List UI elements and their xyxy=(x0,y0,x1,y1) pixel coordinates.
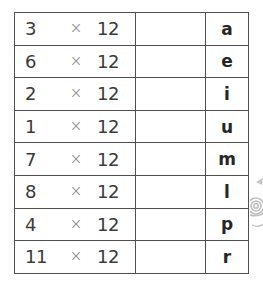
multiplication-sign-icon: × xyxy=(59,119,93,134)
problem-expression: 4×12 xyxy=(15,209,135,241)
answer-cell[interactable] xyxy=(136,143,206,176)
answer-cell[interactable] xyxy=(136,13,206,46)
table-row: 4×12p xyxy=(15,208,249,241)
table-body: 3×12a6×12e2×12i1×12u7×12m8×12l4×12p11×12… xyxy=(15,13,249,274)
problem-expression: 3×12 xyxy=(15,13,135,45)
answer-cell[interactable] xyxy=(136,78,206,111)
factor-a: 6 xyxy=(25,51,59,72)
problem-expression: 2×12 xyxy=(15,78,135,110)
letter-key-cell: e xyxy=(206,45,249,78)
letter-key: p xyxy=(206,209,248,241)
answer-input-area[interactable] xyxy=(136,241,205,273)
letter-key: l xyxy=(206,176,248,208)
letter-key-cell: a xyxy=(206,13,249,46)
letter-key: i xyxy=(206,78,248,110)
letter-key: e xyxy=(206,46,248,78)
factor-a: 11 xyxy=(25,246,59,267)
letter-key-cell: i xyxy=(206,78,249,111)
problem-cell: 7×12 xyxy=(15,143,136,176)
multiplication-sign-icon: × xyxy=(59,217,93,232)
factor-b: 12 xyxy=(93,83,129,104)
problem-cell: 3×12 xyxy=(15,13,136,46)
table-row: 7×12m xyxy=(15,143,249,176)
table-row: 1×12u xyxy=(15,110,249,143)
letter-key: r xyxy=(206,241,248,273)
answer-input-area[interactable] xyxy=(136,13,205,45)
answer-cell[interactable] xyxy=(136,110,206,143)
problem-cell: 2×12 xyxy=(15,78,136,111)
multiplication-table: 3×12a6×12e2×12i1×12u7×12m8×12l4×12p11×12… xyxy=(14,12,249,274)
letter-key: a xyxy=(206,13,248,45)
problem-cell: 1×12 xyxy=(15,110,136,143)
factor-b: 12 xyxy=(93,181,129,202)
table-row: 3×12a xyxy=(15,13,249,46)
letter-key: u xyxy=(206,111,248,143)
problem-cell: 4×12 xyxy=(15,208,136,241)
factor-b: 12 xyxy=(93,51,129,72)
answer-cell[interactable] xyxy=(136,175,206,208)
problem-expression: 1×12 xyxy=(15,111,135,143)
problem-expression: 7×12 xyxy=(15,143,135,175)
multiplication-sign-icon: × xyxy=(59,152,93,167)
factor-a: 2 xyxy=(25,83,59,104)
problem-cell: 6×12 xyxy=(15,45,136,78)
factor-a: 4 xyxy=(25,214,59,235)
letter-key-cell: p xyxy=(206,208,249,241)
factor-a: 8 xyxy=(25,181,59,202)
factor-b: 12 xyxy=(93,214,129,235)
problem-expression: 6×12 xyxy=(15,46,135,78)
multiplication-sign-icon: × xyxy=(59,249,93,264)
letter-key-cell: r xyxy=(206,241,249,274)
factor-a: 3 xyxy=(25,18,59,39)
problem-expression: 11×12 xyxy=(15,241,135,273)
answer-input-area[interactable] xyxy=(136,78,205,110)
table-row: 6×12e xyxy=(15,45,249,78)
multiplication-sign-icon: × xyxy=(59,54,93,69)
answer-input-area[interactable] xyxy=(136,46,205,78)
table-row: 8×12l xyxy=(15,175,249,208)
problem-cell: 8×12 xyxy=(15,175,136,208)
letter-key: m xyxy=(206,143,248,175)
factor-b: 12 xyxy=(93,246,129,267)
factor-a: 1 xyxy=(25,116,59,137)
multiplication-sign-icon: × xyxy=(59,21,93,36)
answer-input-area[interactable] xyxy=(136,143,205,175)
letter-key-cell: m xyxy=(206,143,249,176)
answer-cell[interactable] xyxy=(136,208,206,241)
snail-clipart-icon xyxy=(250,176,263,234)
answer-input-area[interactable] xyxy=(136,176,205,208)
table-row: 2×12i xyxy=(15,78,249,111)
letter-key-cell: l xyxy=(206,175,249,208)
factor-a: 7 xyxy=(25,149,59,170)
problem-cell: 11×12 xyxy=(15,241,136,274)
multiplication-sign-icon: × xyxy=(59,184,93,199)
factor-b: 12 xyxy=(93,18,129,39)
answer-input-area[interactable] xyxy=(136,209,205,241)
answer-input-area[interactable] xyxy=(136,111,205,143)
multiplication-sign-icon: × xyxy=(59,86,93,101)
answer-cell[interactable] xyxy=(136,45,206,78)
letter-key-cell: u xyxy=(206,110,249,143)
worksheet-page: 3×12a6×12e2×12i1×12u7×12m8×12l4×12p11×12… xyxy=(0,0,263,281)
table-row: 11×12r xyxy=(15,241,249,274)
factor-b: 12 xyxy=(93,149,129,170)
factor-b: 12 xyxy=(93,116,129,137)
answer-cell[interactable] xyxy=(136,241,206,274)
problem-expression: 8×12 xyxy=(15,176,135,208)
